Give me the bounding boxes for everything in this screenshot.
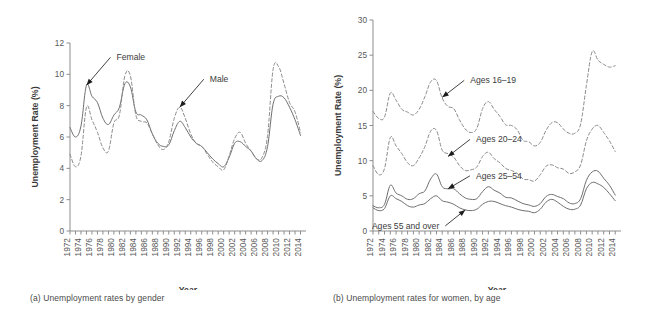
x-tick-label: 2010	[584, 238, 594, 257]
x-tick-label: 1988	[150, 238, 160, 257]
series-line-ages-16-19	[373, 51, 615, 146]
x-tick-label: 1974	[73, 238, 83, 257]
x-axis-title: Year	[488, 285, 507, 290]
chart-panel-b: 0510152025301972197419761978198019821984…	[329, 0, 659, 321]
annotation-label-female: Female	[116, 52, 145, 62]
x-tick-label: 1982	[423, 238, 433, 257]
x-tick-label: 1972	[365, 238, 375, 257]
x-tick-label: 1982	[117, 238, 127, 257]
y-tick-label: 25	[358, 50, 368, 60]
y-tick-label: 20	[358, 85, 368, 95]
x-tick-label: 2006	[561, 238, 571, 257]
y-tick-label: 0	[362, 226, 367, 236]
annotation-label-ages-25-54: Ages 25–54	[476, 171, 522, 181]
x-tick-label: 1984	[434, 238, 444, 257]
x-tick-label: 2002	[227, 238, 237, 257]
x-tick-label: 1972	[62, 238, 72, 257]
x-tick-label: 1980	[106, 238, 116, 257]
x-tick-label: 2014	[607, 238, 617, 257]
x-tick-label: 2012	[282, 238, 292, 257]
x-tick-label: 1978	[95, 238, 105, 257]
y-tick-label: 15	[358, 121, 368, 131]
series-line-female	[70, 82, 301, 167]
x-tick-label: 2002	[538, 238, 548, 257]
unemployment-women-by-age-chart: 0510152025301972197419761978198019821984…	[329, 0, 659, 290]
y-tick-label: 0	[59, 226, 64, 236]
axis-lines	[70, 43, 306, 231]
caption-panel-a: (a) Unemployment rates by gender	[30, 293, 165, 303]
annotation-arrowhead	[448, 183, 455, 189]
x-tick-label: 2000	[526, 238, 536, 257]
x-tick-label: 1992	[480, 238, 490, 257]
y-tick-label: 10	[358, 156, 368, 166]
x-tick-label: 1990	[469, 238, 479, 257]
x-tick-label: 2010	[271, 238, 281, 257]
annotation-label-ages-55-and-over: Ages 55 and over	[372, 221, 440, 231]
x-tick-label: 2000	[216, 238, 226, 257]
x-tick-label: 2006	[249, 238, 259, 257]
x-tick-label: 2012	[596, 238, 606, 257]
x-tick-label: 1996	[194, 238, 204, 257]
x-tick-label: 1990	[161, 238, 171, 257]
x-tick-label: 2014	[293, 238, 303, 257]
figure-container: 0246810121972197419761978198019821984198…	[0, 0, 659, 321]
annotation-arrowhead	[442, 91, 449, 97]
annotation-label-ages-16-19: Ages 16–19	[470, 75, 516, 85]
y-tick-label: 4	[59, 163, 64, 173]
y-tick-label: 8	[59, 101, 64, 111]
y-tick-label: 10	[55, 69, 65, 79]
x-tick-label: 1976	[388, 238, 398, 257]
x-tick-label: 2008	[260, 238, 270, 257]
annotation-label-male: Male	[210, 74, 229, 84]
x-tick-label: 1994	[492, 238, 502, 257]
x-tick-label: 1978	[400, 238, 410, 257]
chart-panel-a: 0246810121972197419761978198019821984198…	[0, 0, 330, 321]
annotation-label-ages-20-24: Ages 20–24	[476, 134, 522, 144]
y-tick-label: 30	[358, 15, 368, 25]
y-axis-title: Unemployment Rate (%)	[30, 86, 40, 187]
x-tick-label: 2008	[573, 238, 583, 257]
x-tick-label: 2004	[550, 238, 560, 257]
x-tick-label: 1992	[172, 238, 182, 257]
x-axis-title: Year	[179, 285, 198, 290]
x-tick-label: 1994	[183, 238, 193, 257]
x-tick-label: 1998	[205, 238, 215, 257]
y-tick-label: 12	[55, 38, 65, 48]
y-tick-label: 6	[59, 132, 64, 142]
x-tick-label: 1980	[411, 238, 421, 257]
x-tick-label: 1988	[457, 238, 467, 257]
x-tick-label: 2004	[238, 238, 248, 257]
caption-panel-b: (b) Unemployment rates for women, by age	[333, 293, 500, 303]
x-tick-label: 1986	[139, 238, 149, 257]
x-tick-label: 1976	[84, 238, 94, 257]
series-line-ages-55-and-over	[373, 182, 615, 213]
x-tick-label: 1998	[515, 238, 525, 257]
y-axis-title: Unemployment Rate (%)	[333, 75, 343, 176]
x-tick-label: 1986	[446, 238, 456, 257]
annotation-arrowhead	[459, 210, 466, 216]
y-tick-label: 2	[59, 195, 64, 205]
y-tick-label: 5	[362, 191, 367, 201]
x-tick-label: 1974	[377, 238, 387, 257]
x-tick-label: 1984	[128, 238, 138, 257]
unemployment-by-gender-chart: 0246810121972197419761978198019821984198…	[0, 0, 330, 290]
x-tick-label: 1996	[503, 238, 513, 257]
